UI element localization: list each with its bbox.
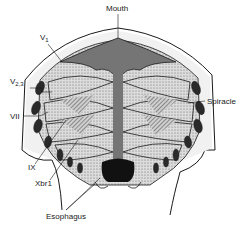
diagram-canvas: Mouth V1 V2,3 VII Spiracle IX Xbr1 Esoph… — [0, 0, 247, 231]
label-xbr1: Xbr1 — [35, 179, 52, 188]
label-spiracle: Spiracle — [207, 97, 236, 106]
esophagus-opening — [102, 159, 135, 183]
label-v1: V1 — [40, 33, 49, 43]
label-vii: VII — [10, 112, 20, 121]
label-v23: V2,3 — [10, 77, 24, 87]
label-ix: IX — [28, 163, 36, 172]
label-esophagus: Esophagus — [46, 212, 86, 221]
label-v23-sub: 2,3 — [15, 81, 24, 87]
label-mouth: Mouth — [106, 4, 128, 13]
label-v1-sub: 1 — [45, 37, 49, 43]
